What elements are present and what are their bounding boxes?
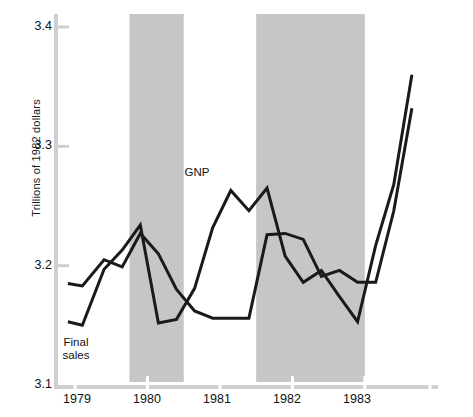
shaded-band-recession-1981-82 [256,14,365,382]
y-tick-3.2 [58,264,69,267]
axis-lines [54,14,438,389]
x-axis-bar [54,385,438,389]
x-tick-1980 [146,376,149,389]
y-axis-bar [54,14,58,385]
x-tick-1983 [363,376,366,389]
y-tick-3.4 [58,26,69,29]
y-tick-3.3 [58,145,69,148]
x-tick-1981 [218,376,221,389]
x-tick-1982 [291,376,294,389]
x-tick-1979 [74,376,77,389]
plot-area [0,0,473,417]
chart-container: Trillions of 1982 dollars 3.4 3.3 3.2 3.… [0,0,473,417]
shaded-band-recession-1980 [129,14,183,382]
x-tick-minor [429,376,432,389]
recession-bands [129,14,364,382]
